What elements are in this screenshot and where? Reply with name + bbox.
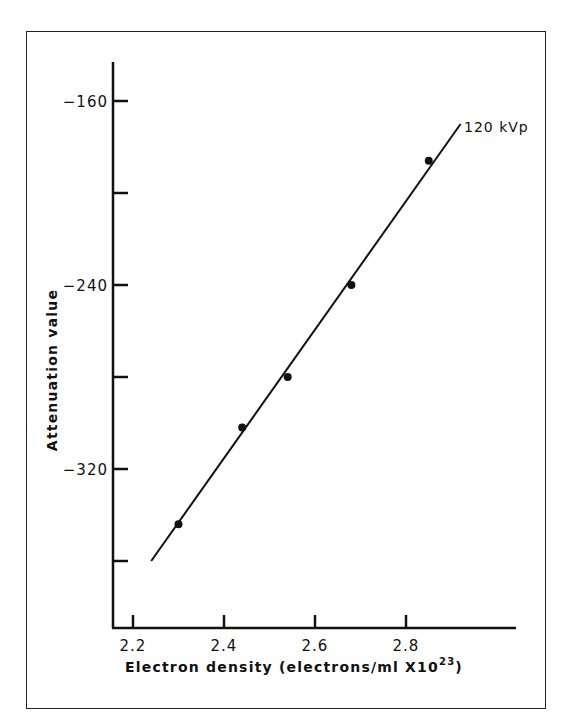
x-tick-label: 2.2 <box>120 637 147 655</box>
fit-line <box>151 124 460 561</box>
x-tick-label: 2.6 <box>302 637 329 655</box>
data-point <box>425 157 433 165</box>
x-tick-label: 2.8 <box>393 637 420 655</box>
data-point <box>347 281 355 289</box>
data-point <box>175 520 183 528</box>
y-axis-label: Attenuation value <box>44 289 60 451</box>
y-tick-label: −240 <box>63 277 108 295</box>
chart: −160−240−3202.22.42.62.8 120 kVp Electro… <box>0 0 570 724</box>
series-label: 120 kVp <box>464 119 529 135</box>
data-point <box>284 373 292 381</box>
x-axis-label: Electron density (electrons/ml X1023) <box>125 656 463 675</box>
ticks: −160−240−3202.22.42.62.8 <box>63 93 420 655</box>
y-tick-label: −320 <box>63 461 108 479</box>
data-point <box>238 424 246 432</box>
fit-line-path <box>151 124 460 561</box>
axes <box>112 62 516 628</box>
y-tick-label: −160 <box>63 93 108 111</box>
x-tick-label: 2.4 <box>211 637 238 655</box>
